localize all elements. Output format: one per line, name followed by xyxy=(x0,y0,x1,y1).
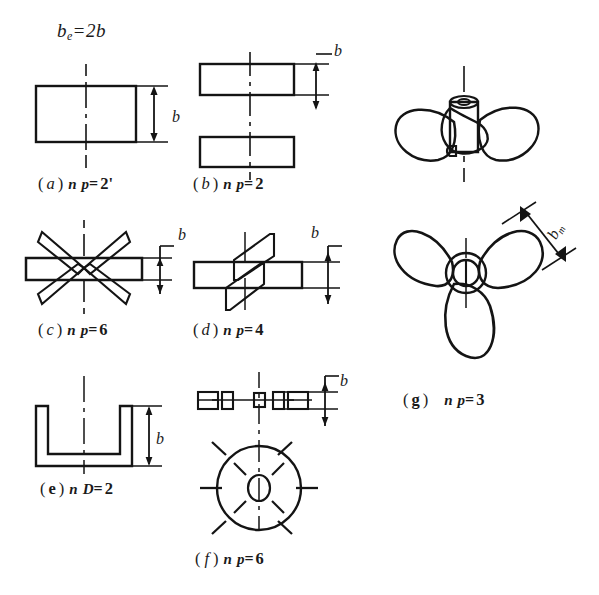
panel-c-dimension-arrow xyxy=(157,246,174,294)
panel-c-subscript: p xyxy=(76,322,89,338)
panel-a-paren-open: ( xyxy=(38,174,44,193)
panel-f-dimension-label: b xyxy=(340,372,348,390)
panel-c-letter: c xyxy=(44,320,57,339)
panel-b-upper-paddle xyxy=(200,64,294,95)
panel-d-dimension-arrow xyxy=(325,246,342,304)
panel-a-dimension-arrow xyxy=(150,86,157,142)
panel-g-propeller-face-view xyxy=(390,196,599,368)
panel-a-drawing xyxy=(18,58,198,183)
panel-g-face-blade-upper-left xyxy=(395,231,454,286)
formula-be-equals-2b: be=2b xyxy=(57,21,106,42)
panel-f-equals: = xyxy=(244,550,253,567)
panel-e-paren-open: ( xyxy=(40,479,46,498)
figure-sheet: be=2b b (a)np=2' xyxy=(0,0,599,595)
panel-d-pitched-blade-upper xyxy=(234,234,274,280)
panel-a-subscript: p xyxy=(77,176,90,192)
panel-c-paren-open: ( xyxy=(38,320,44,339)
panel-g-face-blade-upper-right xyxy=(479,231,543,288)
panel-c-caption: (c)np=6 xyxy=(38,322,108,339)
panel-e-value: 2 xyxy=(103,479,113,498)
panel-e-subscript: D xyxy=(78,481,94,497)
panel-e-drawing xyxy=(22,372,197,487)
formula-equals: = xyxy=(73,20,86,41)
panel-g-equals: = xyxy=(465,391,474,408)
panel-c-dimension-label: b xyxy=(178,226,186,244)
panel-b-lower-paddle xyxy=(200,137,294,167)
panel-g-bm-dimension xyxy=(502,202,576,270)
panel-e-dimension-label: b xyxy=(156,430,164,448)
panel-g-variable: n xyxy=(428,392,452,408)
panel-c-equals: = xyxy=(88,321,97,338)
panel-g-face-blade-bottom xyxy=(445,284,494,358)
panel-e-dimension-arrow xyxy=(146,406,153,466)
panel-f-variable: n xyxy=(219,551,232,567)
panel-d-variable: n xyxy=(218,322,231,338)
panel-f-value: 6 xyxy=(254,549,264,568)
panel-a-letter: a xyxy=(44,174,58,193)
panel-d-letter: d xyxy=(199,320,213,339)
panel-f-paren-open: ( xyxy=(195,549,201,568)
panel-g-propeller-side-view xyxy=(392,60,597,200)
panel-a-dimension-label: b xyxy=(172,108,180,126)
panel-b-dimension-arrow xyxy=(313,54,332,110)
panel-f-dimension-arrow xyxy=(322,376,339,426)
panel-b-value: 2 xyxy=(253,174,263,193)
panel-e-variable: n xyxy=(64,481,77,497)
panel-e-letter: e xyxy=(46,479,59,498)
panel-b-dimension-label: b xyxy=(334,42,342,60)
panel-f-letter: f xyxy=(201,549,214,568)
panel-b-paren-open: ( xyxy=(193,174,199,193)
panel-d-drawing xyxy=(190,222,375,332)
panel-f-paren-close: ) xyxy=(213,549,219,568)
panel-c-value: 6 xyxy=(97,320,107,339)
panel-a-caption: (a)np=2' xyxy=(38,176,113,193)
panel-a-value: 2' xyxy=(98,174,113,193)
panel-d-horizontal-blade xyxy=(194,262,302,288)
panel-d-value: 4 xyxy=(253,320,263,339)
panel-f-drawing xyxy=(188,370,378,545)
formula-b-symbol: b xyxy=(57,20,67,41)
panel-f-caption: (f)np=6 xyxy=(195,551,264,568)
panel-f-blade-boxes xyxy=(198,392,308,409)
panel-f-subscript: p xyxy=(232,551,245,567)
panel-g-caption: (g)np=3 xyxy=(403,392,484,409)
panel-b-caption: (b)np=2 xyxy=(193,176,263,193)
panel-g-subscript: p xyxy=(453,392,466,408)
panel-b-subscript: p xyxy=(232,176,245,192)
panel-d-caption: (d)np=4 xyxy=(193,322,263,339)
panel-d-subscript: p xyxy=(232,322,245,338)
panel-b-drawing xyxy=(186,52,366,182)
panel-d-equals: = xyxy=(244,321,253,338)
panel-b-variable: n xyxy=(218,176,231,192)
panel-a-equals: = xyxy=(89,175,98,192)
formula-b-subscript: e xyxy=(67,29,73,43)
panel-a-variable: n xyxy=(63,176,76,192)
panel-e-equals: = xyxy=(94,480,103,497)
panel-g-letter: g xyxy=(409,390,423,409)
panel-g-value: 3 xyxy=(474,390,484,409)
panel-d-dimension-label: b xyxy=(311,224,319,242)
panel-g-paren-open: ( xyxy=(403,390,409,409)
panel-b-equals: = xyxy=(244,175,253,192)
panel-c-variable: n xyxy=(62,322,75,338)
panel-d-paren-open: ( xyxy=(193,320,199,339)
panel-e-caption: (e)nD=2 xyxy=(40,481,113,498)
formula-expression: 2b xyxy=(86,20,106,41)
panel-b-letter: b xyxy=(199,174,213,193)
